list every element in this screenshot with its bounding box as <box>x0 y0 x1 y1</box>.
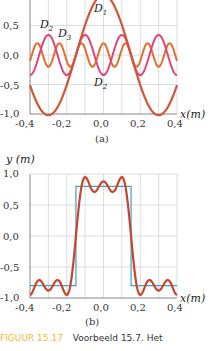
chart-a: 0,5 0,0 -0,5 -1,0 -0,4 -0,2 0,0 0,2 0,4 … <box>0 0 205 144</box>
x-axis-label-a: x(m) <box>180 108 205 121</box>
annotation-d3: D3 <box>57 27 72 42</box>
xtick-a: -0,4 <box>15 118 34 129</box>
xtick-a: 0,0 <box>93 118 109 129</box>
xtick-b: -0,4 <box>15 302 34 313</box>
ytick-b: 1,0 <box>3 168 19 179</box>
y-axis-label-b: y (m) <box>5 153 35 166</box>
ytick-a: 0,0 <box>3 50 19 61</box>
ytick-a: 0,5 <box>3 20 19 31</box>
ytick-b: -0,5 <box>0 262 19 273</box>
ytick-b: 0,0 <box>3 231 19 242</box>
caption-number: FIGUUR 15.17 <box>0 333 63 343</box>
xtick-b: -0,2 <box>52 302 71 313</box>
annotation-d1: D1 <box>93 2 107 17</box>
xtick-a: 0,2 <box>130 118 146 129</box>
ytick-b: 0,5 <box>3 200 19 211</box>
figure: 0,5 0,0 -0,5 -1,0 -0,4 -0,2 0,0 0,2 0,4 … <box>0 0 208 351</box>
figure-caption: FIGUUR 15.17Voorbeeld 15.7. Het <box>0 333 163 343</box>
x-axis-label-b: x(m) <box>180 292 205 305</box>
ytick-a: -0,5 <box>0 80 19 91</box>
xtick-b: 0,2 <box>130 302 146 313</box>
panel-label-a: (a) <box>95 133 109 144</box>
grid-a <box>30 0 177 114</box>
annotation-d2-top: D2 <box>39 18 54 33</box>
xtick-a: -0,2 <box>52 118 71 129</box>
annotation-d2-bottom: D2 <box>93 76 108 91</box>
xtick-b: 0,0 <box>93 302 109 313</box>
grid-b <box>30 174 177 298</box>
panel-label-b: (b) <box>85 316 99 327</box>
caption-text: Voorbeeld 15.7. Het <box>73 333 163 343</box>
chart-b: y (m) 1,0 0,5 0,0 -0,5 -1,0 -0,4 -0,2 0,… <box>0 153 205 327</box>
